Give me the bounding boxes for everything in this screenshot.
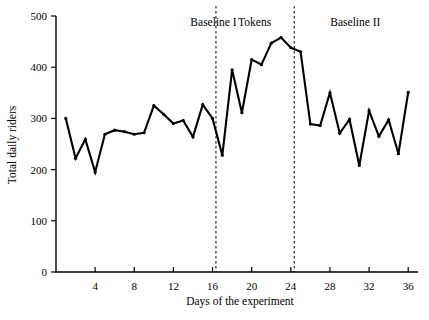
data-point-day-24: [289, 46, 292, 49]
data-point-day-11: [162, 113, 165, 116]
data-points: [64, 36, 410, 174]
y-tick-label-400: 400: [31, 61, 48, 73]
phase-label-tokens: Tokens: [238, 16, 272, 28]
y-tick-label-300: 300: [31, 112, 48, 124]
data-point-day-34: [387, 118, 390, 121]
data-point-day-1: [64, 117, 67, 120]
data-point-day-26: [309, 122, 312, 125]
data-point-day-8: [133, 133, 136, 136]
data-point-day-28: [328, 91, 331, 94]
x-tick-label-36: 36: [403, 280, 415, 292]
x-tick-label-4: 4: [92, 280, 98, 292]
x-tick-label-28: 28: [324, 280, 336, 292]
data-point-day-27: [319, 124, 322, 127]
data-point-day-14: [191, 135, 194, 138]
x-tick-label-8: 8: [132, 280, 138, 292]
data-series: [66, 38, 408, 173]
data-point-day-31: [358, 164, 361, 167]
data-point-day-22: [270, 42, 273, 45]
data-point-day-23: [279, 36, 282, 39]
y-tick-label-500: 500: [31, 10, 48, 22]
x-tick-label-12: 12: [168, 280, 179, 292]
x-tick-label-16: 16: [207, 280, 219, 292]
phase-label-baseline-1: Baseline I: [190, 16, 236, 28]
y-tick-label-200: 200: [31, 164, 48, 176]
phase-divider-lines: [216, 6, 294, 272]
data-point-day-3: [84, 138, 87, 141]
data-point-day-10: [152, 104, 155, 107]
data-point-day-33: [377, 135, 380, 138]
series-line-0: [66, 38, 408, 173]
x-axis-title: Days of the experiment: [186, 295, 294, 308]
data-point-day-29: [338, 132, 341, 135]
y-tick-label-100: 100: [31, 215, 48, 227]
y-axis-title: Total daily riders: [6, 105, 19, 184]
x-tick-labels: 4812162024283236: [92, 280, 414, 292]
data-point-day-2: [74, 157, 77, 160]
data-point-day-5: [103, 133, 106, 136]
data-point-day-35: [397, 152, 400, 155]
x-tick-label-20: 20: [246, 280, 258, 292]
data-point-day-30: [348, 118, 351, 121]
y-tick-label-0: 0: [42, 266, 48, 278]
data-point-day-15: [201, 103, 204, 106]
data-point-day-13: [182, 119, 185, 122]
data-point-day-17: [221, 154, 224, 157]
data-point-day-7: [123, 130, 126, 133]
data-point-day-9: [142, 131, 145, 134]
data-point-day-4: [94, 171, 97, 174]
data-point-day-16: [211, 117, 214, 120]
data-point-day-6: [113, 129, 116, 132]
y-tick-labels: 0100200300400500: [31, 10, 48, 278]
data-point-day-19: [240, 111, 243, 114]
data-point-day-20: [250, 58, 253, 61]
phase-labels: Baseline ITokensBaseline II: [190, 16, 380, 28]
data-point-day-12: [172, 122, 175, 125]
data-point-day-25: [299, 50, 302, 53]
data-point-day-18: [231, 68, 234, 71]
x-tick-label-32: 32: [364, 280, 375, 292]
data-point-day-21: [260, 63, 263, 66]
phase-label-baseline-2: Baseline II: [330, 16, 380, 28]
data-point-day-36: [407, 91, 410, 94]
line-chart: 0100200300400500 4812162024283236 Baseli…: [0, 0, 429, 320]
chart-figure: 0100200300400500 4812162024283236 Baseli…: [0, 0, 429, 320]
x-tick-label-24: 24: [285, 280, 297, 292]
data-point-day-32: [367, 109, 370, 112]
